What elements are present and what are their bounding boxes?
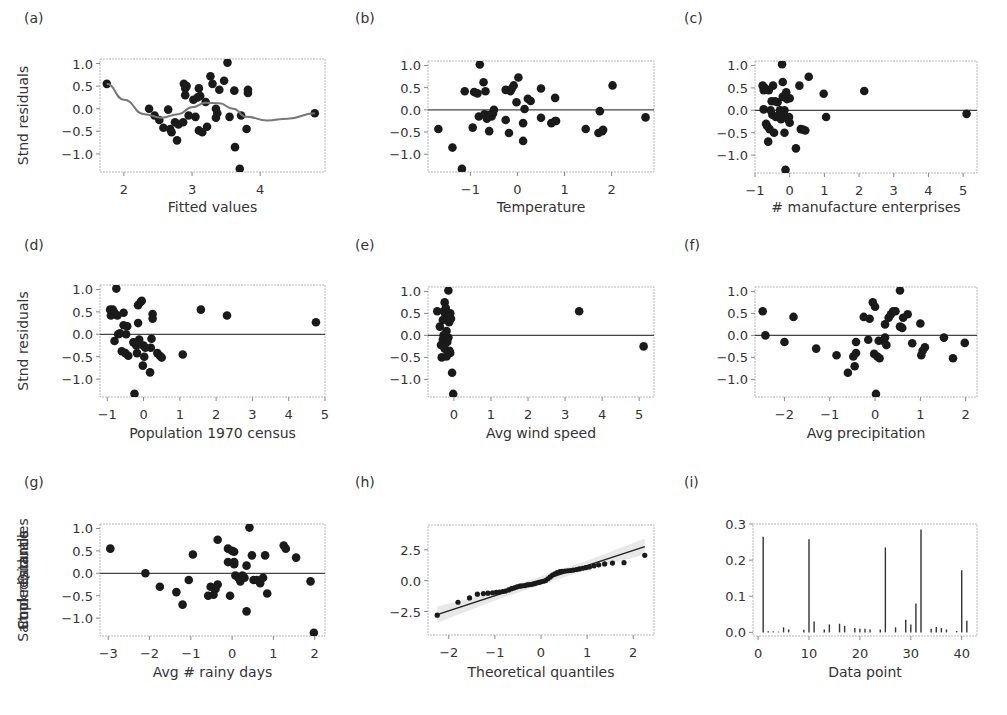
y-tick-label: 1.0 [727,284,748,299]
y-tick-label: 0.5 [400,81,421,96]
x-tick-label: 0 [786,183,794,198]
data-point [164,105,173,114]
data-point [230,547,239,556]
data-point [179,118,188,127]
data-point [460,87,469,96]
data-point [148,310,157,319]
panel-e-plot: (e)−1.0−0.50.00.51.0012345Avg wind speed [355,237,654,441]
data-point [485,591,490,596]
y-tick-label: −1.0 [389,147,421,162]
x-tick-label: 4 [924,183,932,198]
data-point [481,87,490,96]
data-point [124,351,133,360]
y-tick-label: −1.0 [716,148,748,163]
x-tick-label: 3 [890,183,898,198]
data-point [178,350,187,359]
data-point [896,286,905,295]
data-point [780,338,789,347]
x-tick-label: 2 [607,182,615,197]
data-point [242,607,251,616]
data-point [122,330,131,339]
data-point [242,125,251,134]
data-point [778,78,787,87]
data-point [778,60,787,69]
data-point [641,113,650,122]
data-point [181,91,190,100]
data-point [916,319,925,328]
x-tick-label: 5 [959,183,967,198]
data-point [519,119,528,128]
data-point [519,137,528,146]
data-point [468,123,477,132]
data-point [642,553,647,558]
data-point [139,361,148,370]
data-point [552,117,561,126]
data-point [467,595,472,600]
x-tick-label: −2 [775,407,794,422]
y-tick-label: 2.5 [400,543,421,558]
panel-f-plot: (f)−1.0−0.50.00.51.0−2−1012Avg precipita… [684,237,977,441]
panel-letter: (a) [24,10,44,26]
data-point [864,336,873,345]
y-tick-label: 0.5 [400,306,421,321]
data-point [475,592,480,597]
data-point [261,551,270,560]
y-tick-label: 0.0 [727,103,748,118]
x-tick-label: 0 [871,407,879,422]
x-tick-label: 2 [524,407,532,422]
x-tick-label: −2 [439,645,458,660]
x-tick-label: 3 [561,407,569,422]
data-point [447,314,456,323]
data-point [872,390,881,399]
data-point [865,314,874,323]
x-tick-label: 1 [583,645,591,660]
data-point [197,305,206,314]
x-tick-label: 0 [754,646,762,661]
x-axis-title: Temperature [496,199,586,215]
y-tick-label: −1.0 [61,372,93,387]
y-tick-label: 0.0 [727,328,748,343]
data-point [157,353,166,362]
x-tick-label: −1 [181,646,200,661]
x-tick-label: 1 [820,183,828,198]
plot-frame [753,524,977,636]
data-point [832,351,841,360]
x-tick-label: 2 [855,183,863,198]
y-tick-label: 0.0 [400,328,421,343]
y-tick-label: 0.0 [400,574,421,589]
x-tick-label: 2 [311,646,319,661]
x-tick-label: 0 [139,407,147,422]
x-tick-label: 1 [269,646,277,661]
data-point [587,564,592,569]
panel-letter: (f) [684,237,700,253]
data-point [263,589,272,598]
x-tick-label: 30 [903,646,920,661]
data-point [203,123,212,132]
data-point [758,307,767,316]
data-point [882,341,891,350]
y-tick-label: −1.0 [716,372,748,387]
data-point [551,94,560,103]
data-point [537,84,546,93]
x-tick-label: 2 [212,407,220,422]
data-point [473,89,482,98]
data-point [822,113,831,122]
x-tick-label: −1 [485,645,504,660]
data-point [215,85,224,94]
data-point [208,80,217,89]
data-point [435,613,440,618]
loess-smooth-curve [107,84,315,121]
x-axis-title: Theoretical quantiles [466,664,614,680]
x-tick-label: 1 [487,407,495,422]
data-point [761,331,770,340]
data-point [141,569,150,578]
data-point [230,558,239,567]
y-tick-label: 1.0 [72,57,93,72]
data-point [112,284,121,293]
y-tick-label: −0.5 [61,124,93,139]
data-point [537,114,546,123]
x-tick-label: 3 [188,182,196,197]
data-point [785,119,794,128]
data-point [106,544,115,553]
data-point [610,560,615,565]
